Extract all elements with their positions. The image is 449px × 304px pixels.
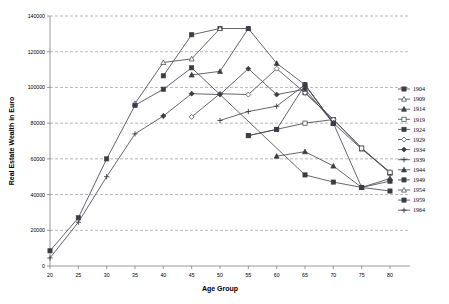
data-point-1959-80 [388,189,392,193]
series-1964 [47,113,166,260]
y-gridlines [47,16,410,266]
data-point-1924-60 [275,127,279,131]
x-tick-label: 40 [160,272,166,278]
legend-label-1964: 1964 [413,207,425,213]
legend-item-1919[interactable]: 1919 [398,117,425,123]
data-point-1919-80 [388,170,392,174]
real-estate-wealth-line-chart: 0200004000060000800001000001200001400002… [0,0,449,304]
series-1949 [161,26,250,78]
legend-label-1909: 1909 [413,96,425,102]
x-tick-label: 45 [189,272,195,278]
legend-marker-1924 [402,127,406,131]
data-point-1919-65 [303,121,307,125]
data-point-1949-55 [246,26,250,30]
legend-label-1924: 1924 [413,127,425,133]
y-tick-label: 140000 [28,13,45,19]
series-line-1934 [163,69,305,116]
legend-item-1929[interactable]: 1929 [398,137,425,143]
x-tick-label: 70 [330,272,336,278]
y-tick-label: 60000 [31,156,46,162]
y-tick-label: 100000 [28,84,45,90]
legend-label-1949: 1949 [413,177,425,183]
legend-marker-1904 [402,87,406,91]
x-tick-label: 30 [104,272,110,278]
legend-marker-1949 [402,178,406,182]
series-line-1919 [248,120,390,173]
x-tick-label: 75 [359,272,365,278]
x-tick-label: 55 [245,272,251,278]
data-point-1949-45 [190,33,194,37]
data-point-1959-65 [303,173,307,177]
y-axis-title: Real Estate Wealth in Euro [8,97,15,186]
legend-label-1934: 1934 [413,147,425,153]
series-1924 [246,83,392,190]
data-point-1959-30 [105,157,109,161]
legend-marker-1919 [402,117,406,121]
legend-label-1904: 1904 [413,86,425,92]
legend-marker-1934 [402,147,407,152]
legend-item-1914[interactable]: 1914 [398,106,425,112]
data-point-1959-35 [133,103,137,107]
x-tick-label: 20 [47,272,53,278]
data-point-1914-65 [303,149,308,154]
legend-label-1944: 1944 [413,167,425,173]
data-point-1959-70 [331,180,335,184]
x-tick-label: 80 [387,272,393,278]
x-tick-label: 25 [75,272,81,278]
legend-label-1939: 1939 [413,157,425,163]
legend-item-1924[interactable]: 1924 [398,127,425,133]
legend-marker-1959 [402,198,406,202]
legend-label-1954: 1954 [413,187,425,193]
data-point-1919-75 [360,146,364,150]
data-point-1959-40 [161,87,165,91]
legend-item-1964[interactable]: 1964 [398,207,425,213]
legend-item-1909[interactable]: 1909 [398,96,425,102]
y-tick-label: 0 [42,263,45,269]
legend-label-1914: 1914 [413,106,425,112]
legend-item-1904[interactable]: 1904 [398,86,425,92]
data-point-1924-55 [246,134,250,138]
series-line-1954 [135,29,220,104]
legend-item-1959[interactable]: 1959 [398,197,425,203]
series-1919 [246,117,392,174]
data-point-1949-40 [161,74,165,78]
legend-item-1954[interactable]: 1954 [398,187,425,193]
series-1944 [189,26,336,125]
legend-label-1959: 1959 [413,197,425,203]
series-line-1949 [163,29,248,76]
y-tick-label: 40000 [31,192,46,198]
y-tick-label: 80000 [31,120,46,126]
legend-item-1934[interactable]: 1934 [398,147,425,153]
x-axis-title: Age Group [202,285,238,293]
data-point-1959-45 [190,66,194,70]
x-tick-label: 50 [217,272,223,278]
x-tick-label: 35 [132,272,138,278]
legend-item-1944[interactable]: 1944 [398,167,425,173]
chart-canvas: 0200004000060000800001000001200001400002… [0,0,449,304]
legend-label-1919: 1919 [413,117,425,123]
y-tick-label: 120000 [28,49,45,55]
series-1954 [133,26,223,106]
series-line-1964 [50,116,163,258]
data-point-1914-70 [331,163,336,168]
x-tick-label: 60 [274,272,280,278]
x-tick-label: 65 [302,272,308,278]
series-1939 [217,82,336,126]
legend-marker-1929 [402,137,407,142]
data-point-1959-20 [48,249,52,253]
data-point-1959-75 [360,185,364,189]
legend-item-1949[interactable]: 1949 [398,177,425,183]
y-tick-label: 20000 [31,227,46,233]
series-line-1924 [248,85,390,188]
legend-item-1939[interactable]: 1939 [398,157,425,163]
data-point-1924-80 [388,179,392,183]
legend-label-1929: 1929 [413,137,425,143]
